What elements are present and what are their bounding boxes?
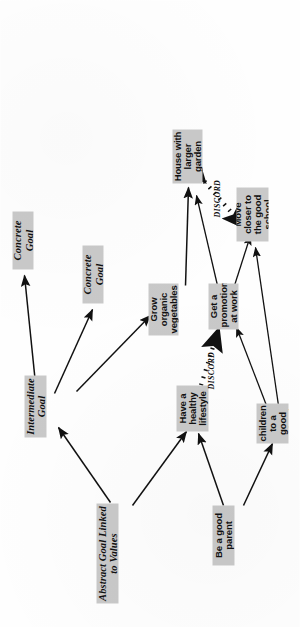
diagram-stage: Abstract Goal Linked to Values Intermedi… bbox=[0, 0, 299, 627]
edge-abstract-to-healthy bbox=[132, 431, 186, 505]
node-have-a-healthy-lifestyle[interactable]: Have a healthy lifestyle bbox=[176, 385, 208, 431]
edge-abstract-to-intermediate bbox=[58, 427, 110, 502]
node-get-a-promotion-at-work[interactable]: Get a promotion at work bbox=[208, 283, 238, 329]
node-send-children-to-a-good-school[interactable]: Send children to a good school bbox=[256, 403, 288, 443]
node-label: Move closer to the good school bbox=[236, 189, 268, 239]
node-concrete-goal-top[interactable]: Concrete Goal bbox=[12, 211, 33, 269]
node-move-closer-to-the-good-school[interactable]: Move closer to the good school bbox=[236, 187, 268, 241]
node-be-a-good-parent[interactable]: Be a good parent bbox=[212, 505, 234, 565]
edge-school-to-promotion bbox=[236, 327, 266, 405]
node-label: Concrete Goal bbox=[82, 247, 103, 301]
figure-canvas: Abstract Goal Linked to Values Intermedi… bbox=[0, 0, 299, 627]
node-label: Send children to a good school bbox=[256, 405, 288, 441]
node-house-with-larger-garden[interactable]: House with larger garden bbox=[172, 129, 202, 183]
node-label: Grow organic vegetables bbox=[148, 285, 178, 333]
edge-vegetables-to-house bbox=[185, 187, 188, 285]
node-abstract-goal[interactable]: Abstract Goal Linked to Values bbox=[96, 503, 118, 603]
discord-label-upper: DISCORD bbox=[206, 351, 215, 389]
node-label: House with larger garden bbox=[172, 131, 202, 181]
edge-promotion-to-move bbox=[234, 235, 250, 285]
node-label: Be a good parent bbox=[213, 507, 234, 563]
edge-intermediate-to-concrete-mid bbox=[54, 309, 92, 393]
node-label: Intermediate Goal bbox=[24, 377, 46, 435]
edge-school-to-move bbox=[255, 247, 278, 405]
node-label: Abstract Goal Linked to Values bbox=[96, 505, 118, 601]
node-intermediate-goal[interactable]: Intermediate Goal bbox=[24, 375, 46, 437]
discord-label-lower: DISCORD bbox=[212, 179, 221, 217]
node-label: Get a promotion at work bbox=[208, 285, 238, 327]
node-concrete-goal-mid[interactable]: Concrete Goal bbox=[82, 245, 103, 303]
node-label: Concrete Goal bbox=[12, 213, 33, 267]
edge-parent-to-healthy bbox=[198, 433, 223, 505]
edge-parent-to-school bbox=[243, 443, 272, 505]
edge-intermediate-to-vegetables bbox=[76, 315, 150, 391]
discord-text: DISCORD bbox=[212, 179, 221, 217]
node-grow-organic-vegetables[interactable]: Grow organic vegetables bbox=[148, 283, 178, 335]
discord-text: DISCORD bbox=[206, 351, 215, 389]
node-label: Have a healthy lifestyle bbox=[177, 387, 208, 429]
